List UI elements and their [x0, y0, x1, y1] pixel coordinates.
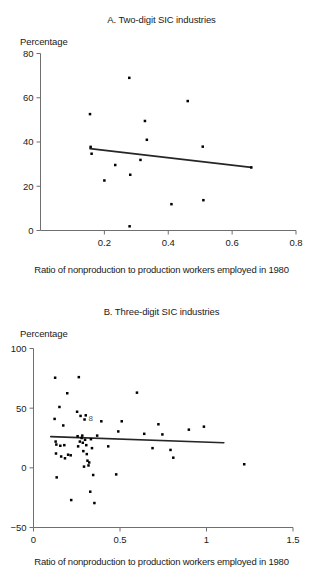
data-point	[203, 425, 206, 428]
data-point	[63, 444, 66, 447]
data-point	[62, 424, 64, 427]
data-point	[114, 164, 117, 167]
data-point	[128, 77, 131, 80]
data-point	[117, 430, 120, 433]
panel-b-plot-area: −5005010000.511.58	[0, 292, 323, 557]
y-tick-label: 100	[11, 343, 27, 354]
x-tick-label: 1	[204, 534, 209, 545]
data-point	[188, 428, 191, 431]
data-point	[81, 434, 84, 437]
data-point	[100, 420, 103, 423]
data-point	[60, 455, 63, 458]
data-point	[76, 435, 79, 438]
data-point	[59, 445, 62, 448]
panel-a: A. Two-digit SIC industries Percentage 0…	[0, 0, 323, 291]
y-tick-label: 80	[23, 48, 34, 59]
data-point	[80, 437, 83, 440]
y-tick-label: 50	[16, 403, 27, 414]
data-point	[202, 199, 205, 202]
data-point	[161, 433, 164, 436]
data-point	[92, 474, 95, 477]
data-point	[151, 447, 154, 450]
data-point	[186, 100, 189, 103]
data-point	[64, 457, 67, 460]
data-point	[53, 418, 56, 421]
panel-a-plot-area: 0204060800.20.40.60.8	[0, 0, 323, 265]
data-point	[250, 166, 253, 169]
data-point	[82, 442, 85, 445]
data-point	[77, 445, 80, 448]
data-point	[55, 443, 58, 446]
data-point	[79, 440, 82, 443]
x-tick-label: 0.6	[226, 237, 239, 248]
data-point	[169, 449, 172, 452]
data-point	[90, 438, 93, 441]
data-point	[96, 434, 99, 437]
data-point	[89, 490, 92, 493]
data-point	[54, 376, 57, 379]
figure-container: A. Two-digit SIC industries Percentage 0…	[0, 0, 323, 583]
x-tick-label: 0.2	[98, 237, 111, 248]
data-point	[89, 113, 92, 116]
data-point	[115, 473, 118, 476]
data-point	[83, 465, 86, 468]
y-tick-label: 20	[23, 181, 34, 192]
data-point	[85, 444, 88, 447]
panel-a-svg: 0204060800.20.40.60.8	[0, 0, 323, 265]
y-tick-label: 60	[23, 92, 34, 103]
data-point	[129, 173, 132, 176]
data-point	[67, 453, 70, 456]
panel-b-svg: −5005010000.511.58	[0, 292, 323, 557]
data-point	[146, 139, 149, 142]
data-point	[88, 461, 91, 464]
data-point	[91, 447, 94, 450]
data-point	[55, 452, 58, 455]
data-point	[107, 445, 110, 448]
data-point	[170, 203, 173, 206]
data-point	[89, 146, 92, 149]
x-tick-label: 0	[31, 534, 36, 545]
data-point	[144, 120, 147, 123]
data-point	[54, 440, 57, 443]
data-point	[93, 502, 96, 505]
data-point	[82, 450, 85, 453]
data-point	[201, 145, 204, 148]
data-point	[90, 152, 93, 155]
data-point	[78, 376, 81, 379]
data-point	[58, 406, 61, 409]
y-tick-label: 0	[21, 462, 26, 473]
data-point	[157, 423, 160, 426]
data-point	[84, 439, 87, 442]
data-point	[66, 392, 69, 395]
y-tick-label: 0	[28, 225, 33, 236]
data-point	[55, 476, 58, 479]
panel-b: B. Three-digit SIC industries Percentage…	[0, 292, 323, 583]
data-point	[76, 410, 79, 413]
data-point	[120, 420, 123, 423]
x-tick-label: 0.4	[162, 237, 175, 248]
data-point	[139, 159, 142, 162]
panel-a-xlabel: Ratio of nonproduction to production wor…	[0, 264, 323, 275]
data-point	[243, 463, 246, 466]
data-point	[136, 391, 139, 394]
data-point	[84, 414, 87, 417]
data-point	[69, 454, 72, 457]
data-point	[86, 453, 89, 456]
annotation-label: 8	[89, 414, 94, 423]
data-point	[79, 415, 82, 418]
y-tick-label: 40	[23, 136, 34, 147]
data-point	[83, 418, 86, 421]
data-point	[87, 464, 90, 467]
data-point	[143, 433, 146, 436]
y-tick-label: −50	[10, 522, 26, 533]
data-point	[172, 456, 175, 459]
x-tick-label: 0.5	[113, 534, 126, 545]
data-point	[103, 179, 106, 182]
regression-line	[51, 437, 224, 443]
data-point	[70, 499, 73, 502]
data-point	[128, 225, 131, 228]
x-tick-label: 1.5	[286, 534, 299, 545]
panel-b-xlabel: Ratio of nonproduction to production wor…	[0, 556, 323, 567]
x-tick-label: 0.8	[289, 237, 302, 248]
